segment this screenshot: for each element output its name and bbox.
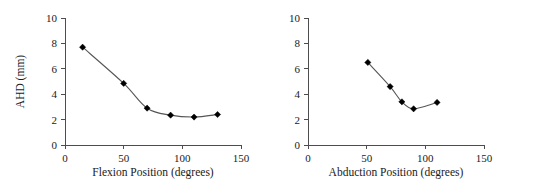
x-tick-label: 150	[476, 152, 493, 164]
x-tick-label: 50	[361, 152, 373, 164]
data-point-marker	[434, 99, 440, 105]
x-tick-label: 0	[305, 152, 311, 164]
data-point-marker	[168, 112, 174, 118]
y-tick-label: 10	[289, 12, 301, 24]
x-tick-label: 0	[62, 152, 68, 164]
y-tick-label: 0	[295, 139, 301, 151]
data-point-marker	[214, 111, 220, 117]
data-point-marker	[411, 106, 417, 112]
data-point-marker	[191, 114, 197, 120]
x-tick-label: 50	[118, 152, 130, 164]
x-axis-title: Abduction Position (degrees)	[329, 166, 464, 179]
y-tick-label: 2	[52, 114, 58, 126]
x-tick-label: 100	[417, 152, 434, 164]
y-tick-label: 4	[295, 88, 301, 100]
y-tick-label: 10	[46, 12, 58, 24]
y-tick-label: 4	[52, 88, 58, 100]
abduction-chart-svg: 0246810050100150Abduction Position (degr…	[269, 0, 537, 194]
figure-container: 0246810050100150Flexion Position (degree…	[0, 0, 537, 194]
x-tick-label: 100	[174, 152, 191, 164]
flexion-chart-svg: 0246810050100150Flexion Position (degree…	[0, 0, 268, 194]
x-tick-label: 150	[233, 152, 250, 164]
y-axis-title: AHD (mm)	[14, 55, 27, 109]
series-line	[83, 47, 218, 117]
x-axis-title: Flexion Position (degrees)	[92, 166, 214, 179]
y-tick-label: 6	[52, 63, 58, 75]
y-tick-label: 8	[52, 37, 58, 49]
y-tick-label: 2	[295, 114, 301, 126]
y-tick-label: 0	[52, 139, 58, 151]
y-tick-label: 8	[295, 37, 301, 49]
chart-panel-abduction: 0246810050100150Abduction Position (degr…	[269, 0, 537, 194]
chart-panel-flexion: 0246810050100150Flexion Position (degree…	[0, 0, 268, 194]
y-tick-label: 6	[295, 63, 301, 75]
